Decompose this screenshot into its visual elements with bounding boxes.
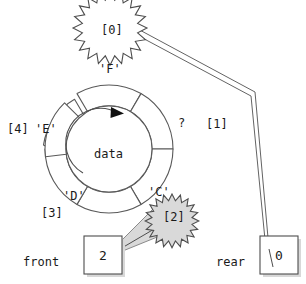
ring-index-label-4: [4] — [7, 123, 29, 135]
ring-slot-label-F: 'F' — [99, 63, 121, 75]
front-pointer-name: front — [23, 256, 59, 268]
rear-box-value: 0 — [275, 249, 283, 262]
ring-slot-label-D: 'D' — [63, 190, 85, 202]
ring-index-label-3: [3] — [41, 207, 63, 219]
rear-callout-label: [0] — [101, 24, 123, 36]
ring-slot-label-C: 'C' — [148, 186, 170, 198]
ring-slot-label-1: ? — [178, 117, 185, 129]
front-box-value: 2 — [99, 249, 107, 262]
rear-pointer-name: rear — [216, 256, 245, 268]
front-callout-label: [2] — [163, 211, 185, 223]
ring-index-label-1: [1] — [206, 118, 228, 130]
diagram-canvas — [0, 0, 306, 284]
ring-center-label: data — [94, 148, 123, 160]
ring-slot-label-E: 'E' — [35, 123, 57, 135]
circular-queue-diagram: [0] [2] 'F' ? 'C' 'D' 'E' [1] [3] [4] da… — [0, 0, 306, 284]
